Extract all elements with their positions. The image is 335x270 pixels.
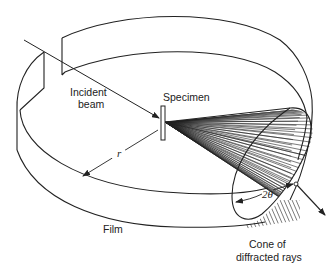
diagram-canvas: Incident beam Specimen r 2θ Film Cone of… bbox=[0, 0, 335, 270]
label-incident: Incident bbox=[70, 86, 107, 98]
cone-axis-arrow bbox=[297, 185, 325, 215]
label-beam: beam bbox=[78, 98, 105, 110]
specimen bbox=[161, 106, 165, 140]
label-two-theta: 2θ bbox=[262, 188, 274, 200]
film-slit bbox=[62, 38, 65, 75]
powder-camera-diagram: Incident beam Specimen r 2θ Film Cone of… bbox=[0, 0, 335, 270]
label-specimen: Specimen bbox=[163, 91, 210, 103]
film-front-inner-rim bbox=[20, 110, 268, 194]
cone-lower-hatch bbox=[236, 200, 318, 232]
label-cone-line1: Cone of bbox=[249, 238, 286, 250]
label-radius: r bbox=[117, 147, 122, 159]
label-cone-line2: diffracted rays bbox=[236, 251, 302, 263]
beam-entrance-slot bbox=[20, 52, 44, 110]
diffracted-rays bbox=[165, 107, 333, 217]
label-film: Film bbox=[103, 223, 123, 235]
